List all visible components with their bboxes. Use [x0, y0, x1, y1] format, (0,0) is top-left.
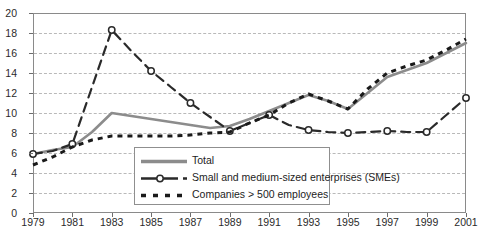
y-tick-label: 16 [0, 48, 17, 59]
x-tick-label: 1983 [90, 217, 134, 228]
x-tick-mark [466, 213, 467, 217]
data-point-marker [345, 130, 351, 136]
y-tick-mark [29, 133, 33, 134]
data-point-marker [30, 151, 36, 157]
x-tick-mark [387, 213, 388, 217]
y-tick-label: 14 [0, 68, 17, 79]
x-tick-label: 1987 [168, 217, 212, 228]
y-tick-label: 20 [0, 8, 17, 19]
x-tick-label: 1979 [11, 217, 55, 228]
data-point-marker [305, 127, 311, 133]
y-tick-mark [29, 33, 33, 34]
legend-swatch-large-companies [140, 188, 188, 201]
x-tick-label: 1995 [326, 217, 370, 228]
data-point-marker [187, 100, 193, 106]
data-point-marker [463, 95, 469, 101]
y-tick-mark [29, 13, 33, 14]
y-tick-mark [29, 153, 33, 154]
y-tick-mark [29, 173, 33, 174]
legend-swatch-total [140, 154, 188, 167]
x-tick-mark [348, 213, 349, 217]
y-tick-mark [29, 73, 33, 74]
y-tick-mark [29, 93, 33, 94]
y-tick-mark [29, 193, 33, 194]
x-tick-mark [190, 213, 191, 217]
data-point-marker [148, 68, 154, 74]
y-tick-label: 4 [0, 168, 17, 179]
legend-item-smes: Small and medium-sized enterprises (SMEs… [140, 169, 324, 186]
x-tick-label: 2001 [444, 217, 483, 228]
legend-item-total: Total [140, 152, 324, 169]
x-tick-label: 1985 [129, 217, 173, 228]
x-tick-mark [269, 213, 270, 217]
x-tick-mark [230, 213, 231, 217]
legend: Total Small and medium-sized enterprises… [134, 147, 330, 205]
data-point-marker [384, 128, 390, 134]
y-tick-label: 10 [0, 108, 17, 119]
y-tick-label: 18 [0, 28, 17, 39]
y-tick-label: 8 [0, 128, 17, 139]
x-tick-label: 1993 [287, 217, 331, 228]
y-tick-label: 6 [0, 148, 17, 159]
x-tick-mark [72, 213, 73, 217]
x-tick-mark [33, 213, 34, 217]
y-tick-label: 12 [0, 88, 17, 99]
y-tick-mark [29, 113, 33, 114]
x-tick-mark [309, 213, 310, 217]
x-tick-mark [112, 213, 113, 217]
x-tick-label: 1989 [208, 217, 252, 228]
x-tick-mark [427, 213, 428, 217]
y-tick-mark [29, 53, 33, 54]
x-tick-label: 1997 [365, 217, 409, 228]
legend-label-total: Total [192, 155, 214, 166]
x-tick-label: 1991 [247, 217, 291, 228]
x-tick-mark [151, 213, 152, 217]
legend-swatch-smes [140, 171, 188, 184]
y-tick-label: 2 [0, 188, 17, 199]
legend-label-smes: Small and medium-sized enterprises (SMEs… [192, 172, 400, 183]
line-chart: Total Small and medium-sized enterprises… [0, 0, 483, 248]
series-line-1 [33, 30, 466, 154]
x-tick-label: 1981 [50, 217, 94, 228]
legend-item-large-companies: Companies > 500 employees [140, 186, 324, 203]
legend-label-large-companies: Companies > 500 employees [192, 189, 328, 200]
data-point-marker [109, 27, 115, 33]
x-tick-label: 1999 [405, 217, 449, 228]
series-layer [0, 0, 483, 248]
data-point-marker [423, 129, 429, 135]
